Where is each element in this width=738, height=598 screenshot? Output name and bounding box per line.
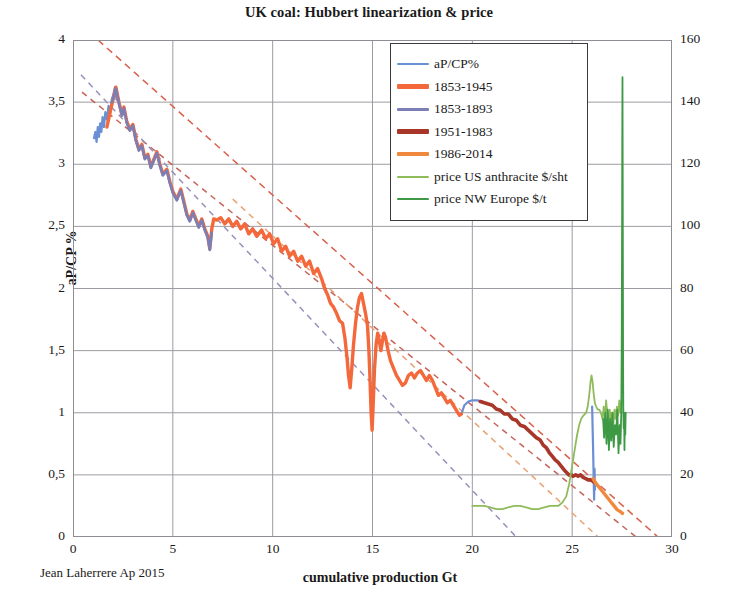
legend-item-label: price NW Europe $/t [434,191,547,207]
y-axis-left-tick-label: 3,5 [7,93,65,109]
legend-item[interactable]: 1986-2014 [397,143,579,166]
y-axis-right-tick-label: 140 [680,93,726,109]
y-axis-right-tick-label: 160 [680,31,726,47]
y-axis-right-tick-label: 120 [680,155,726,171]
legend-color-swatch [397,176,429,178]
y-axis-right-tick-label: 60 [680,342,726,358]
y-axis-right-tick-label: 40 [680,404,726,420]
chart-title: UK coal: Hubbert linearization & price [0,4,738,21]
legend-color-swatch [397,152,429,156]
legend-item-label: 1986-2014 [434,146,493,162]
author-credit: Jean Laherrere Ap 2015 [40,565,165,581]
y-axis-right-tick-label: 80 [680,280,726,296]
y-axis-right-tick-label: 100 [680,217,726,233]
y-axis-left-tick-label: 2,5 [7,217,65,233]
y-axis-left-tick-label: 2 [7,280,65,296]
x-axis-tick-label: 20 [466,541,480,557]
y-axis-left-ticks: 00,511,522,533,54 [0,40,65,537]
y-axis-right-ticks: 020406080100120140160 [680,40,730,537]
x-axis-tick-label: 30 [665,541,679,557]
y-axis-right-tick-label: 0 [680,528,726,544]
y-axis-left-tick-label: 1 [7,404,65,420]
legend-color-swatch [397,108,429,111]
x-axis-ticks: 051015202530 [73,541,672,563]
legend-item[interactable]: 1853-1945 [397,76,579,99]
legend-color-swatch [397,63,429,65]
x-axis-title: cumulative production Gt [180,570,580,586]
legend-item[interactable]: price US anthracite $/sht [397,166,579,189]
y-axis-left-tick-label: 3 [7,155,65,171]
legend-item-label: 1951-1983 [434,124,493,140]
legend-item[interactable]: price NW Europe $/t [397,188,579,211]
legend-item-label: 1853-1893 [434,101,493,117]
legend-item[interactable]: aP/CP% [397,53,579,76]
chart-legend: aP/CP%1853-19451853-18931951-19831986-20… [390,43,588,221]
y-axis-left-tick-label: 4 [7,31,65,47]
x-axis-tick-label: 5 [169,541,176,557]
legend-item-label: 1853-1945 [434,79,493,95]
y-axis-right-tick-label: 20 [680,466,726,482]
y-axis-left-tick-label: 0 [7,528,65,544]
x-axis-tick-label: 10 [266,541,280,557]
y-axis-left-tick-label: 0,5 [7,466,65,482]
legend-color-swatch [397,84,429,89]
y-axis-left-tick-label: 1,5 [7,342,65,358]
legend-color-swatch [397,129,429,134]
legend-item-label: aP/CP% [434,56,479,72]
x-axis-tick-label: 15 [366,541,380,557]
legend-item-label: price US anthracite $/sht [434,169,568,185]
x-axis-tick-label: 0 [70,541,77,557]
chart-root: UK coal: Hubbert linearization & price a… [0,0,738,598]
legend-color-swatch [397,198,429,200]
x-axis-tick-label: 25 [565,541,579,557]
legend-item[interactable]: 1853-1893 [397,98,579,121]
legend-item[interactable]: 1951-1983 [397,121,579,144]
